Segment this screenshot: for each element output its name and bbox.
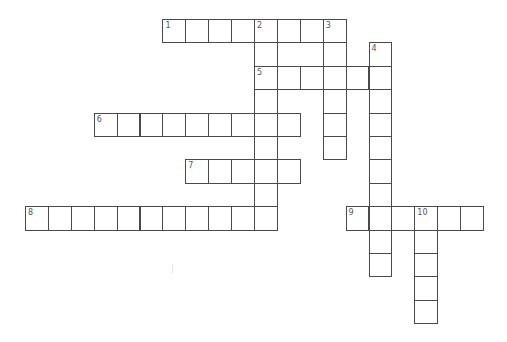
crossword-cell[interactable]: 3 (323, 19, 347, 43)
crossword-cell[interactable] (162, 113, 186, 137)
clue-number: 3 (326, 21, 331, 30)
crossword-cell[interactable] (185, 19, 209, 43)
crossword-cell[interactable] (185, 113, 209, 137)
crossword-cell[interactable] (277, 159, 301, 183)
crossword-cell[interactable] (254, 206, 278, 230)
clue-number: 10 (417, 208, 427, 217)
crossword-cell[interactable] (254, 183, 278, 207)
crossword-cell[interactable] (369, 253, 393, 277)
crossword-cell[interactable] (369, 230, 393, 254)
crossword-cell[interactable] (208, 113, 232, 137)
crossword-cell[interactable] (140, 113, 164, 137)
crossword-cell[interactable] (414, 276, 438, 300)
crossword-cell[interactable] (391, 206, 415, 230)
crossword-cell[interactable] (323, 136, 347, 160)
crossword-cell[interactable] (117, 113, 141, 137)
crossword-cell[interactable] (254, 159, 278, 183)
crossword-cell[interactable] (162, 206, 186, 230)
crossword-cell[interactable] (208, 206, 232, 230)
crossword-cell[interactable] (369, 183, 393, 207)
crossword-cell[interactable] (414, 230, 438, 254)
crossword-cell[interactable] (48, 206, 72, 230)
crossword-cell[interactable] (277, 19, 301, 43)
crossword-cell[interactable]: 9 (346, 206, 370, 230)
clue-number: 5 (257, 68, 262, 77)
crossword-cell[interactable] (231, 206, 255, 230)
crossword-cell[interactable] (208, 159, 232, 183)
crossword-cell[interactable] (369, 206, 393, 230)
clue-number: 2 (257, 21, 262, 30)
crossword-cell[interactable] (369, 136, 393, 160)
crossword-cell[interactable] (437, 206, 461, 230)
crossword-cell[interactable] (460, 206, 484, 230)
crossword-cell[interactable] (277, 66, 301, 90)
crossword-cell[interactable] (231, 19, 255, 43)
crossword-cell[interactable] (71, 206, 95, 230)
clue-number: 8 (28, 208, 33, 217)
clue-number: 9 (349, 208, 354, 217)
clue-number: 6 (97, 115, 102, 124)
crossword-cell[interactable] (414, 300, 438, 324)
crossword-cell[interactable] (346, 66, 370, 90)
crossword-cell[interactable] (208, 19, 232, 43)
crossword-cell[interactable] (254, 42, 278, 66)
crossword-cell[interactable]: 2 (254, 19, 278, 43)
clue-number: 7 (188, 161, 193, 170)
crossword-cell[interactable]: 7 (185, 159, 209, 183)
crossword-cell[interactable] (300, 66, 324, 90)
crossword-cell[interactable] (117, 206, 141, 230)
crossword-grid: 12354678910 (0, 0, 507, 342)
crossword-cell[interactable]: 10 (414, 206, 438, 230)
clue-number: 4 (372, 44, 377, 53)
crossword-cell[interactable] (254, 113, 278, 137)
crossword-cell[interactable] (369, 89, 393, 113)
crossword-cell[interactable]: 4 (369, 42, 393, 66)
crossword-cell[interactable] (140, 206, 164, 230)
crossword-cell[interactable] (231, 159, 255, 183)
stray-mark (172, 264, 173, 274)
crossword-cell[interactable] (231, 113, 255, 137)
crossword-cell[interactable] (323, 89, 347, 113)
crossword-cell[interactable] (254, 89, 278, 113)
crossword-cell[interactable] (254, 136, 278, 160)
crossword-cell[interactable] (369, 113, 393, 137)
crossword-cell[interactable] (369, 159, 393, 183)
crossword-cell[interactable] (277, 113, 301, 137)
crossword-cell[interactable]: 6 (94, 113, 118, 137)
crossword-cell[interactable] (414, 253, 438, 277)
clue-number: 1 (165, 21, 170, 30)
crossword-cell[interactable]: 1 (162, 19, 186, 43)
crossword-cell[interactable]: 5 (254, 66, 278, 90)
crossword-cell[interactable] (323, 113, 347, 137)
crossword-cell[interactable] (300, 19, 324, 43)
crossword-cell[interactable] (94, 206, 118, 230)
crossword-cell[interactable] (323, 66, 347, 90)
crossword-cell[interactable] (323, 42, 347, 66)
crossword-cell[interactable] (185, 206, 209, 230)
crossword-cell[interactable] (369, 66, 393, 90)
crossword-cell[interactable]: 8 (25, 206, 49, 230)
